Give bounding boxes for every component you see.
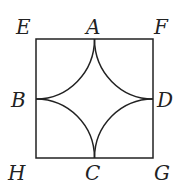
diagram: E A F B D H C G: [0, 0, 182, 186]
arc-ea: [36, 39, 95, 99]
label-h: H: [7, 161, 26, 185]
arc-fa: [95, 39, 154, 99]
square: [36, 39, 153, 158]
label-c: C: [85, 161, 100, 185]
label-e: E: [15, 15, 31, 39]
label-d: D: [156, 88, 173, 112]
arc-hb: [36, 99, 95, 158]
label-b: B: [10, 88, 26, 112]
label-g: G: [154, 161, 170, 185]
arc-gd: [95, 99, 154, 158]
label-a: A: [84, 15, 100, 39]
label-f: F: [153, 15, 169, 39]
